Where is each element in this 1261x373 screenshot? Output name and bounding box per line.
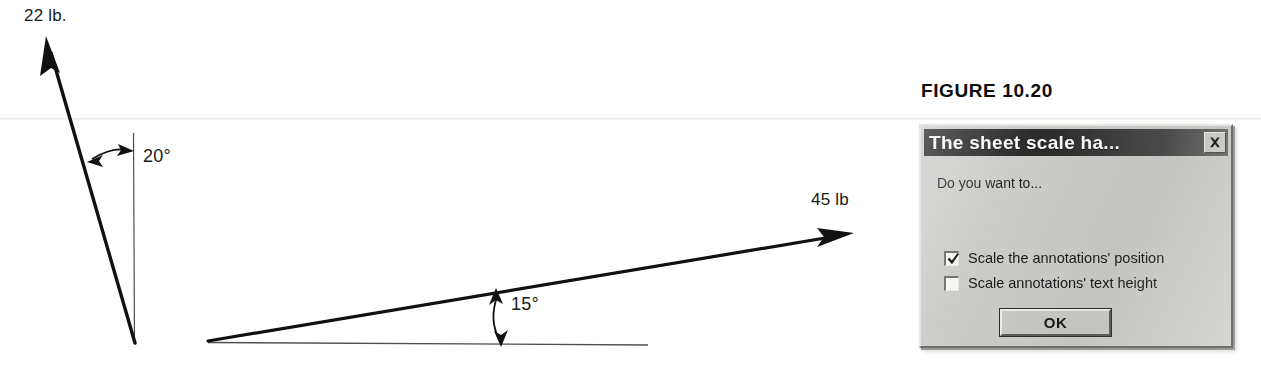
dialog-titlebar[interactable]: The sheet scale ha... <box>924 129 1228 156</box>
angle-label-20deg: 20° <box>143 146 171 167</box>
angle-label-15deg: 15° <box>511 294 539 315</box>
dialog-prompt: Do you want to... <box>937 175 1042 191</box>
dialog-title: The sheet scale ha... <box>929 132 1120 154</box>
checkbox-row-scale-position[interactable]: Scale the annotations' position <box>944 250 1164 266</box>
checkbox-row-scale-text-height[interactable]: Scale annotations' text height <box>944 275 1157 291</box>
checkbox-label-scale-position: Scale the annotations' position <box>968 250 1164 266</box>
checkbox-label-scale-text-height: Scale annotations' text height <box>968 275 1157 291</box>
vector-diagram-canvas <box>0 0 900 373</box>
force-label-45lb: 45 lb <box>811 190 849 210</box>
ok-button[interactable]: OK <box>1000 309 1111 336</box>
dialog-window: The sheet scale ha... Do you want to... … <box>919 124 1233 348</box>
vertical-reference-line <box>134 133 135 343</box>
force-vector-45lb-shaft <box>208 237 831 341</box>
dialog-body: Do you want to... Scale the annotations'… <box>924 158 1228 343</box>
horizontal-baseline <box>208 343 648 346</box>
force-label-22lb: 22 lb. <box>24 6 67 26</box>
figure-caption: FIGURE 10.20 <box>921 80 1053 102</box>
checkbox-scale-text-height[interactable] <box>944 276 959 291</box>
vector-diagram: 22 lb. 45 lb 20° 15° <box>0 0 900 373</box>
force-vector-22lb-arrowhead <box>40 36 60 76</box>
force-vector-22lb-shaft <box>51 53 135 343</box>
close-icon[interactable] <box>1204 132 1226 153</box>
figure-page: 22 lb. 45 lb 20° 15° FIGURE 10.20 The sh… <box>0 0 1261 373</box>
checkbox-scale-position[interactable] <box>944 251 959 266</box>
